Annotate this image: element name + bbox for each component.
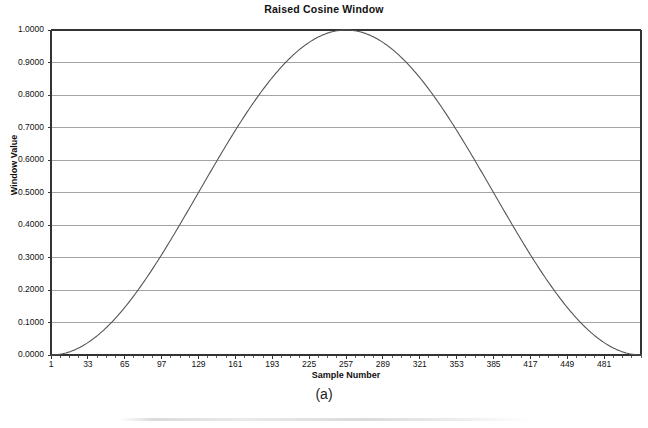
x-tick-label: 289 bbox=[363, 360, 403, 369]
x-tick-label: 193 bbox=[252, 360, 292, 369]
x-axis-minor-ticks bbox=[48, 30, 642, 359]
x-tick-label: 97 bbox=[142, 360, 182, 369]
y-tick-label: 0.5000 bbox=[0, 188, 44, 197]
figure-raised-cosine-window: Raised Cosine Window Window Value 0.0000… bbox=[0, 0, 648, 428]
scan-artifact bbox=[120, 418, 530, 421]
x-tick-label: 417 bbox=[510, 360, 550, 369]
x-axis-title: Sample Number bbox=[51, 370, 641, 380]
x-tick-label: 321 bbox=[400, 360, 440, 369]
y-tick-label: 0.7000 bbox=[0, 123, 44, 132]
x-tick-label: 449 bbox=[547, 360, 587, 369]
y-tick-label: 0.4000 bbox=[0, 220, 44, 229]
y-tick-label: 1.0000 bbox=[0, 25, 44, 34]
x-tick-label: 65 bbox=[105, 360, 145, 369]
x-tick-label: 225 bbox=[289, 360, 329, 369]
x-tick-label: 161 bbox=[215, 360, 255, 369]
y-tick-label: 0.8000 bbox=[0, 90, 44, 99]
x-tick-label: 1 bbox=[31, 360, 71, 369]
y-tick-label: 0.1000 bbox=[0, 318, 44, 327]
x-tick-label: 385 bbox=[474, 360, 514, 369]
x-tick-label: 129 bbox=[179, 360, 219, 369]
x-tick-label: 33 bbox=[68, 360, 108, 369]
figure-caption: (a) bbox=[0, 386, 648, 402]
gridlines bbox=[51, 63, 641, 323]
x-tick-label: 257 bbox=[326, 360, 366, 369]
y-tick-label: 0.0000 bbox=[0, 350, 44, 359]
y-tick-label: 0.6000 bbox=[0, 155, 44, 164]
x-tick-label: 353 bbox=[437, 360, 477, 369]
y-tick-label: 0.2000 bbox=[0, 285, 44, 294]
y-tick-label: 0.3000 bbox=[0, 253, 44, 262]
y-tick-label: 0.9000 bbox=[0, 58, 44, 67]
x-tick-label: 481 bbox=[584, 360, 624, 369]
